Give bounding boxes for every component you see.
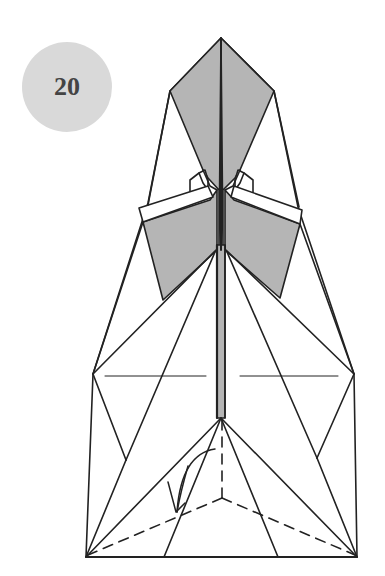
origami-diagram bbox=[0, 0, 385, 576]
center-strip bbox=[217, 245, 225, 418]
